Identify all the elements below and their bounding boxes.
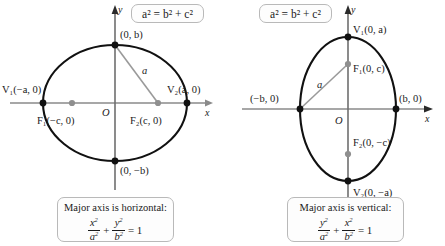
focus-left-dot (69, 100, 75, 106)
first-numerator: x2 (88, 218, 100, 230)
summary-box-horizontal: Major axis is horizontal: x2 a2 + y2 b2 … (57, 197, 174, 242)
first-denominator: a2 (318, 230, 331, 243)
y-axis-label: y (350, 4, 356, 15)
vertex-bottom-dot (345, 178, 352, 185)
y-axis-label: y (117, 4, 123, 15)
covertex-top-dot (112, 42, 119, 49)
focus-bottom-label: F₂(0, −c) (353, 137, 391, 149)
second-fraction: y2 b2 (112, 218, 125, 242)
first-numerator: y2 (318, 218, 330, 230)
vertex-left-label: V₁(−a, 0) (2, 84, 42, 96)
second-fraction: x2 b2 (342, 218, 355, 242)
covertex-bottom-dot (112, 158, 119, 165)
pythagorean-equation: a² = b² + c² (270, 8, 321, 20)
focus-bottom-dot (345, 151, 351, 157)
covertex-right-dot (393, 106, 400, 113)
first-denominator: a2 (88, 230, 101, 243)
vertex-right-label: V₂(a, 0) (167, 84, 201, 96)
summary-title-vertical: Major axis is vertical: (288, 198, 403, 214)
focus-top-label: F₁(0, c) (353, 63, 385, 75)
x-axis-label: x (204, 107, 210, 118)
summary-box-vertical: Major axis is vertical: y2 a2 + x2 b2 = … (287, 197, 404, 242)
vertex-top-label: V₁(0, a) (353, 24, 387, 36)
focus-right-label: F₂(c, 0) (130, 115, 162, 127)
summary-equation-horizontal: x2 a2 + y2 b2 = 1 (58, 214, 173, 242)
plus-sign: + (102, 225, 110, 236)
first-fraction: y2 a2 (318, 218, 331, 242)
plus-sign: + (332, 225, 340, 236)
vertex-top-dot (345, 34, 352, 41)
x-axis-arrow (424, 106, 433, 113)
first-fraction: x2 a2 (88, 218, 101, 242)
focus-top-dot (345, 61, 351, 67)
second-denominator: b2 (342, 230, 355, 243)
covertex-top-label: (0, b) (120, 29, 143, 41)
pythagorean-equation: a² = b² + c² (142, 8, 193, 20)
focus-right-dot (155, 100, 161, 106)
pythagorean-box-vertical: a² = b² + c² (259, 4, 332, 23)
covertex-bottom-label: (0, −b) (120, 165, 149, 177)
covertex-left-dot (297, 106, 304, 113)
second-numerator: y2 (113, 218, 125, 230)
second-denominator: b2 (112, 230, 125, 243)
segment-a-label: a (142, 65, 147, 76)
vertex-left-dot (40, 100, 47, 107)
focus-left-label: F₁(−c, 0) (37, 115, 75, 127)
vertex-right-dot (184, 100, 191, 107)
covertex-right-label: (b, 0) (399, 93, 422, 105)
summary-equation-vertical: y2 a2 + x2 b2 = 1 (288, 214, 403, 242)
origin-label: O (102, 107, 110, 118)
segment-a-label: a (317, 79, 322, 90)
origin-label: O (335, 115, 343, 126)
pythagorean-box-horizontal: a² = b² + c² (131, 4, 204, 23)
x-axis-label: x (424, 113, 430, 124)
equals-one: = 1 (127, 225, 143, 236)
covertex-left-label: (−b, 0) (250, 93, 279, 105)
second-numerator: x2 (343, 218, 355, 230)
x-axis-arrow (205, 100, 213, 107)
ellipse-horizontal-figure: y x O a V₁(−a, 0) V₂(a, 0) (0, b) (0, −b… (0, 0, 222, 246)
summary-title-horizontal: Major axis is horizontal: (58, 198, 173, 214)
equals-one: = 1 (357, 225, 373, 236)
